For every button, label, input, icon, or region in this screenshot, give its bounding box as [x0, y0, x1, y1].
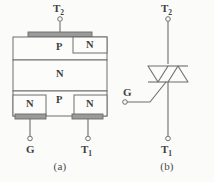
- symbol-t1-terminal-node: [166, 136, 171, 141]
- triac-symbol-drawing: [120, 0, 214, 160]
- gate-terminal-node: [28, 136, 33, 141]
- symbol-gate-terminal-node: [123, 100, 128, 105]
- symbol-label-gate-main: G: [123, 86, 132, 98]
- symbol-label-t1: T1: [161, 143, 172, 158]
- label-t1: T1: [81, 143, 92, 158]
- bottom-metal-contact: [72, 114, 103, 119]
- label-t2: T2: [53, 2, 64, 17]
- symbol-t2-terminal-node: [166, 17, 171, 22]
- caption-panel-b: (b): [120, 160, 214, 172]
- figure-container: P N N N P N T2 G T1 (a): [0, 0, 214, 182]
- label-t2-sub: 2: [60, 8, 64, 17]
- panel-b-circuit-symbol: T2 G T1 (b): [120, 0, 214, 182]
- region-label-bottom-p: P: [56, 94, 62, 105]
- symbol-label-t1-sub: 1: [168, 149, 172, 158]
- region-label-bottom-n-left: N: [26, 98, 34, 109]
- caption-panel-a: (a): [0, 160, 120, 172]
- symbol-gate-lead: [127, 82, 166, 102]
- gate-metal-contact: [15, 114, 46, 119]
- label-gate: G: [26, 143, 35, 155]
- label-t1-sub: 1: [88, 149, 92, 158]
- region-label-bottom-n-right: N: [86, 98, 94, 109]
- t2-terminal-node: [58, 17, 63, 22]
- symbol-label-t2-sub: 2: [168, 8, 172, 17]
- panel-a-cross-section: P N N N P N T2 G T1 (a): [0, 0, 120, 182]
- symbol-label-gate: G: [123, 86, 132, 98]
- cross-section-drawing: [0, 0, 120, 160]
- top-metal-contact: [28, 32, 92, 37]
- region-label-middle-n: N: [56, 68, 64, 79]
- triac-triangle-right: [168, 66, 188, 82]
- t1-terminal-node: [86, 136, 91, 141]
- label-gate-main: G: [26, 143, 35, 155]
- region-label-top-n: N: [86, 39, 94, 50]
- symbol-label-t2: T2: [161, 2, 172, 17]
- region-label-top-p: P: [56, 41, 62, 52]
- triac-triangle-left: [148, 66, 168, 82]
